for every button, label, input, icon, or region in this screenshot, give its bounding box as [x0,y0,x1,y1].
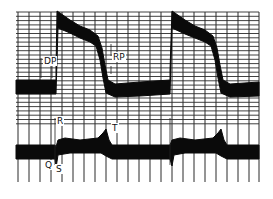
label-s: S [56,164,62,174]
label-t: T [111,123,118,133]
label-r: R [57,116,63,126]
label-q: Q [45,160,52,170]
label-rp: RP [113,52,125,62]
recording-chart: DPRPRTQS [0,0,273,199]
ecg-trace [16,129,259,168]
traces [16,11,259,168]
label-dp: DP [44,56,57,66]
pressure-trace [16,11,259,97]
